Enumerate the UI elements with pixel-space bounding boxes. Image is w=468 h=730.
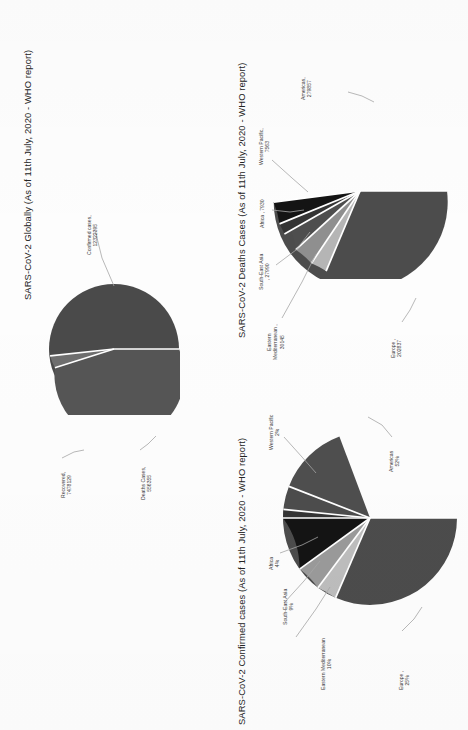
chart-confirmed-label-americas: Americas 52% xyxy=(388,451,401,472)
label-value: 7563 xyxy=(264,128,270,165)
figure-page: SARS-CoV-2 Globally (As of 11th July, 20… xyxy=(0,0,468,730)
chart-confirmed-label-europe: Europe , 25% xyxy=(398,671,411,690)
label-line: Mediterranean , xyxy=(272,324,278,360)
chart-confirmed-title: SARS-CoV-2 Confirmed cases (As of 11th J… xyxy=(236,438,247,725)
chart-deaths-label-europe: Europe , 202837 xyxy=(390,339,403,358)
label-line: Africa , 7930 xyxy=(259,199,265,228)
label-value: 12322395 xyxy=(92,215,98,255)
chart-confirmed-label-south-east-asia: South-East Asia 9% xyxy=(282,589,295,625)
chart-globally-label-recovered: Recovered, 7478129 xyxy=(60,472,73,498)
chart-confirmed-label-africa: Africa 4% xyxy=(268,557,281,570)
chart-deaths-label-africa: Africa , 7930 xyxy=(259,199,265,228)
label-value: 10% xyxy=(326,638,332,690)
label-value: 30145 xyxy=(279,324,285,360)
label-value: 2% xyxy=(274,415,280,450)
chart-deaths-title: SARS-CoV-2 Deaths Cases (As of 11th July… xyxy=(236,62,247,338)
chart-confirmed-label-western-pacific: Western Pacific 2% xyxy=(268,415,281,450)
label-value: 4% xyxy=(274,557,280,570)
chart-globally-title: SARS-CoV-2 Globally (As of 11th July, 20… xyxy=(22,50,33,300)
label-value: 202837 xyxy=(396,339,402,358)
label-value: 52% xyxy=(394,451,400,472)
label-value: 556355 xyxy=(146,467,152,500)
label-value: , 27990 xyxy=(264,254,270,290)
chart-deaths-label-americas: Americas, 279857 xyxy=(300,77,313,100)
label-value: 279857 xyxy=(306,77,312,100)
chart-globally-label-confirmed: Confirmed cases, 12322395 xyxy=(86,215,99,255)
chart-deaths-label-eastern-mediterranean: Eastern Mediterranean , 30145 xyxy=(266,324,285,360)
label-value: 9% xyxy=(288,589,294,625)
chart-deaths-label-south-east-asia: South-East Asia , 27990 xyxy=(258,254,271,290)
label-value: 7478129 xyxy=(66,472,72,498)
chart-deaths-label-western-pacific: Western Pacific, 7563 xyxy=(258,128,271,165)
chart-globally-label-deaths: Deaths Cases, 556355 xyxy=(140,467,153,500)
chart-confirmed-leader-lines xyxy=(250,395,460,715)
label-value: 25% xyxy=(404,671,410,690)
chart-confirmed-label-eastern-mediterranean: Eastern Mediterranean 10% xyxy=(320,638,333,690)
